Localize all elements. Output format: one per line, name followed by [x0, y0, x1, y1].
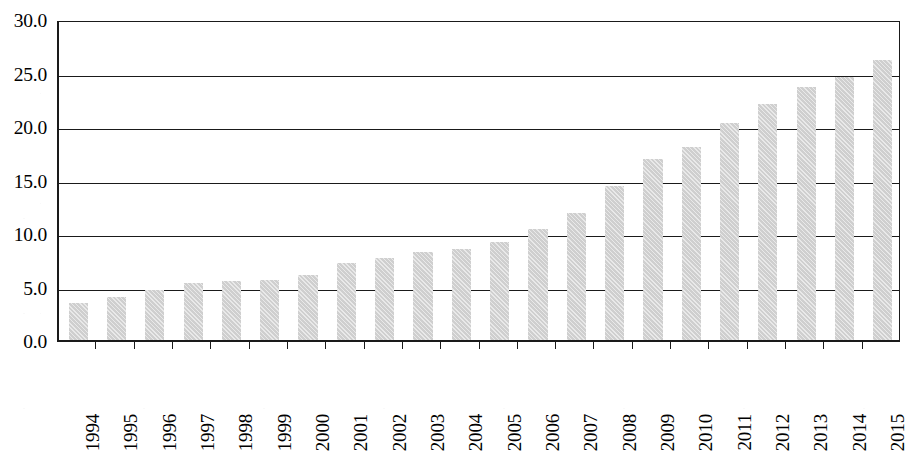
- x-axis-ticks: [57, 342, 900, 350]
- x-axis-tick-label: 1999: [275, 414, 294, 451]
- x-axis-tick: [632, 342, 633, 349]
- x-axis-tick-label: 2000: [313, 414, 332, 451]
- x-axis-tick: [785, 342, 786, 349]
- x-axis-tick: [95, 342, 96, 349]
- x-axis-tick-label: 2001: [351, 414, 370, 451]
- bar: [69, 303, 88, 340]
- x-axis-tick-label: 1997: [198, 414, 217, 451]
- y-axis-tick-label: 5.0: [0, 279, 47, 299]
- bar: [107, 297, 126, 340]
- bar: [528, 229, 547, 340]
- x-axis-tick-label: 1995: [121, 414, 140, 451]
- bar: [758, 104, 777, 340]
- x-axis-labels: 1994199519961997199819992000200120022003…: [57, 352, 900, 418]
- bar: [222, 281, 241, 340]
- x-axis-tick: [440, 342, 441, 349]
- x-axis-tick-label: 2011: [735, 414, 754, 451]
- y-axis-tick-label: 0.0: [0, 332, 47, 352]
- x-axis-tick-label: 2006: [543, 414, 562, 451]
- x-axis-tick: [593, 342, 594, 349]
- x-axis-tick-label: 2005: [505, 414, 524, 451]
- bar-series: [59, 22, 899, 340]
- bar: [605, 186, 624, 340]
- x-axis-tick: [747, 342, 748, 349]
- x-axis-tick-label: 1996: [160, 414, 179, 451]
- y-axis-tick-label: 15.0: [0, 172, 47, 192]
- x-axis-tick: [134, 342, 135, 349]
- x-axis-tick: [517, 342, 518, 349]
- x-axis-tick-label: 2013: [811, 414, 830, 451]
- bar: [298, 275, 317, 340]
- x-axis-tick: [249, 342, 250, 349]
- bar: [720, 123, 739, 340]
- plot-area: [57, 21, 900, 342]
- x-axis-tick: [823, 342, 824, 349]
- x-axis-tick: [325, 342, 326, 349]
- y-axis-tick-label: 25.0: [0, 65, 47, 85]
- bar: [797, 87, 816, 340]
- x-axis-tick-label: 2007: [581, 414, 600, 451]
- x-axis-tick: [862, 342, 863, 349]
- y-axis-tick-label: 20.0: [0, 118, 47, 138]
- x-axis-tick-label: 2008: [620, 414, 639, 451]
- y-axis-tick-label: 10.0: [0, 225, 47, 245]
- x-axis-tick: [287, 342, 288, 349]
- bar: [490, 242, 509, 340]
- x-axis-tick: [364, 342, 365, 349]
- x-axis-tick-label: 2009: [658, 414, 677, 451]
- x-axis-tick: [708, 342, 709, 349]
- bar: [835, 77, 854, 340]
- x-axis-tick-label: 2012: [773, 414, 792, 451]
- bar: [682, 147, 701, 340]
- x-axis-tick: [172, 342, 173, 349]
- x-axis-tick-label: 2004: [466, 414, 485, 451]
- bar: [413, 252, 432, 340]
- x-axis-tick: [210, 342, 211, 349]
- x-axis-tick: [479, 342, 480, 349]
- x-axis-tick-label: 2010: [696, 414, 715, 451]
- bar: [145, 290, 164, 340]
- x-axis-tick-label: 2015: [888, 414, 907, 451]
- x-axis-tick-label: 1998: [236, 414, 255, 451]
- x-axis-tick: [670, 342, 671, 349]
- x-axis-tick-label: 2002: [390, 414, 409, 451]
- bar: [452, 249, 471, 340]
- bar: [337, 263, 356, 340]
- bar: [643, 159, 662, 340]
- bar: [260, 280, 279, 340]
- x-axis-tick-label: 2003: [428, 414, 447, 451]
- bar: [375, 258, 394, 340]
- y-axis-tick-label: 30.0: [0, 11, 47, 31]
- x-axis-tick-label: 1994: [83, 414, 102, 451]
- bar: [873, 60, 892, 340]
- x-axis-tick-label: 2014: [850, 414, 869, 451]
- bar: [184, 283, 203, 340]
- x-axis-tick: [555, 342, 556, 349]
- bar: [567, 213, 586, 340]
- x-axis-tick: [402, 342, 403, 349]
- y-axis-labels: 0.05.010.015.020.025.030.0: [0, 0, 54, 418]
